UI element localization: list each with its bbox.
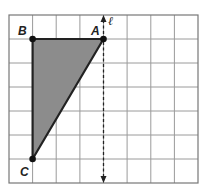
label-a: A — [90, 24, 100, 38]
point-b — [29, 36, 36, 43]
point-a — [100, 36, 107, 43]
label-b: B — [18, 24, 27, 38]
arrow-down-icon — [101, 176, 107, 183]
label-c: C — [20, 165, 29, 179]
triangle-abc — [33, 39, 104, 159]
reflection-grid-diagram: B A C ℓ — [0, 0, 205, 188]
label-l: ℓ — [108, 14, 113, 28]
arrow-up-icon — [101, 15, 107, 22]
point-c — [29, 156, 36, 163]
